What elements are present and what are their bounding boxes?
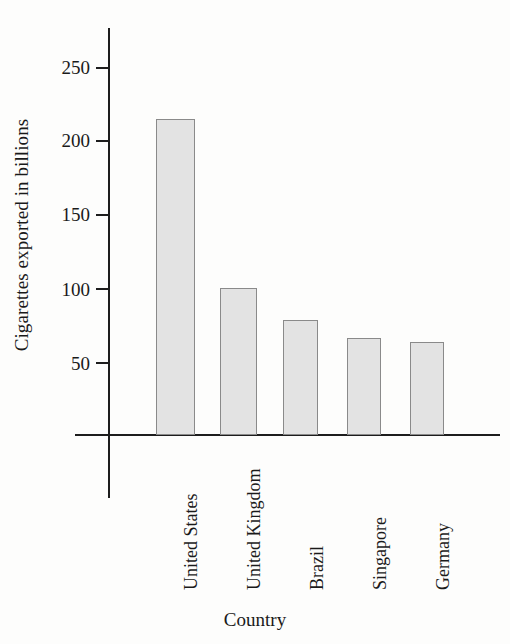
y-tick-label-100: 100 <box>30 280 90 299</box>
x-category-label-brazil: Brazil <box>308 546 326 590</box>
y-tick-label-50: 50 <box>30 354 90 373</box>
y-axis-title: Cigarettes exported in billions <box>8 35 36 435</box>
y-tick-label-200: 200 <box>30 131 90 150</box>
y-axis-line <box>108 28 110 498</box>
bar-united-kingdom <box>220 288 257 435</box>
bar-chart: Cigarettes exported in billions 250 200 … <box>0 0 510 644</box>
y-tick-label-250: 250 <box>30 58 90 77</box>
bar-singapore <box>347 338 381 435</box>
bar-united-states <box>156 119 195 435</box>
x-category-label-united-kingdom: United Kingdom <box>245 469 263 591</box>
bar-germany <box>410 342 444 435</box>
x-category-label-singapore: Singapore <box>371 517 389 590</box>
x-category-label-germany: Germany <box>434 523 452 590</box>
bar-brazil <box>283 320 318 435</box>
y-tick-label-150: 150 <box>30 205 90 224</box>
x-axis-title: Country <box>0 609 510 631</box>
x-category-label-united-states: United States <box>182 494 200 591</box>
